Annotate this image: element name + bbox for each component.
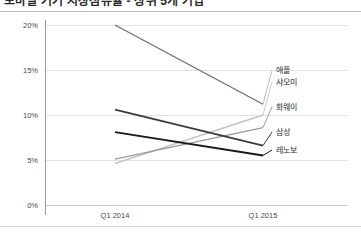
y-tick-label-5: 5%	[4, 156, 38, 165]
y-tick-label-20: 20%	[4, 21, 38, 30]
y-tick-label-10: 10%	[4, 111, 38, 120]
series-label-lenovo: 레노보	[276, 144, 297, 155]
series-line-lenovo	[115, 132, 263, 155]
y-tick-label-15: 15%	[4, 66, 38, 75]
series-label-xiaomi: 샤오미	[276, 76, 297, 87]
chart-screenshot: 모바일 기기 시장점유율 - 상위 5개 기업	[0, 0, 361, 234]
line-chart-svg	[0, 0, 361, 234]
leader-samsung	[263, 132, 272, 146]
x-tick-label-q1-2015: Q1 2015	[228, 211, 298, 220]
series-label-apple: 애플	[276, 64, 290, 75]
y-tick-label-0: 0%	[4, 201, 38, 210]
x-tick-label-q1-2014: Q1 2014	[80, 211, 150, 220]
series-label-samsung: 삼성	[276, 126, 290, 137]
leader-lines	[263, 70, 272, 156]
gridlines	[45, 26, 348, 161]
leader-lenovo	[263, 150, 272, 156]
plot-area	[0, 0, 361, 234]
series-line-xiaomi	[115, 115, 263, 164]
series-label-huawei: 화웨이	[276, 101, 297, 112]
series-line-apple	[115, 25, 263, 104]
